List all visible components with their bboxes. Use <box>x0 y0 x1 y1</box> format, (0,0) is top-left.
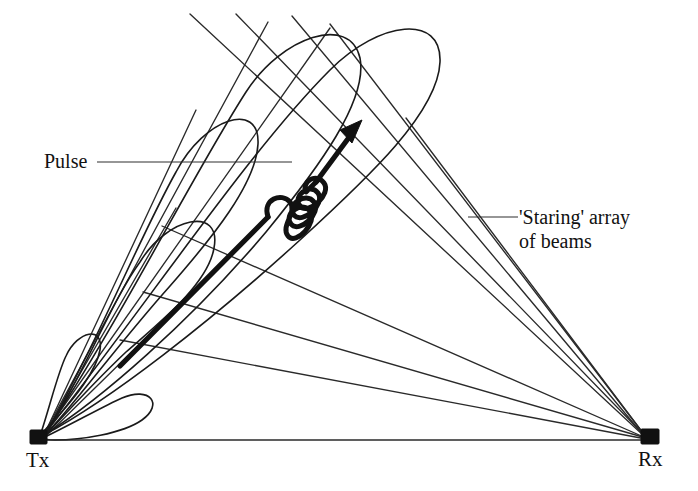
staring-array-label-line-2: of beams <box>519 229 630 253</box>
rx-node <box>641 429 659 444</box>
staring-array-callout-label: 'Staring' array of beams <box>519 205 630 253</box>
radar-beam-diagram: Tx Rx Pulse 'Staring' array of beams <box>0 0 698 491</box>
tx-node <box>30 430 47 444</box>
pulse-arrow-wave <box>267 178 326 238</box>
beam-fan-line-6 <box>162 226 646 438</box>
pulse-callout-label: Pulse <box>44 150 87 173</box>
beam-fan-line-5 <box>406 118 646 437</box>
beam-fan-line-7 <box>143 292 646 438</box>
staring-array-label-line-1: 'Staring' array <box>519 206 630 228</box>
rx-node-label: Rx <box>638 449 663 470</box>
beam-lobes-group <box>40 29 440 440</box>
tx-node-label: Tx <box>26 450 49 471</box>
